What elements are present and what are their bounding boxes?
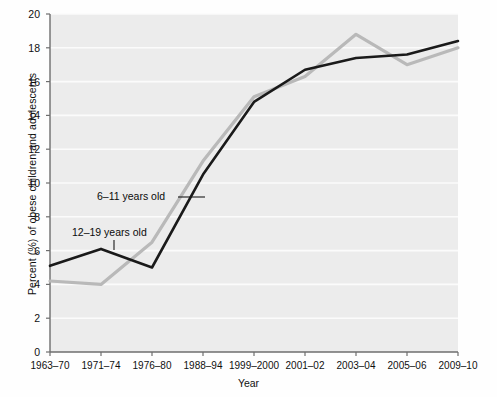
x-tick-label: 1971–74 [82,360,121,371]
x-tick-label: 2001–02 [286,360,325,371]
y-tick-label: 20 [6,9,40,19]
x-tick-label: 2003–04 [337,360,376,371]
x-axis-title: Year [0,377,497,389]
y-tick-label: 2 [6,313,40,323]
line-chart-plot [0,0,497,397]
y-tick-label: 0 [6,347,40,357]
y-tick-label: 12 [6,144,40,154]
y-tick-label: 6 [6,246,40,256]
x-tick-label: 1999–2000 [229,360,279,371]
series-label-12-19: 12–19 years old [72,226,147,238]
series-label-6-11: 6–11 years old [97,190,165,202]
chart-figure: Percent (%) of obese children and adoles… [0,0,497,397]
y-tick-label: 16 [6,77,40,87]
y-tick-label: 14 [6,110,40,120]
x-tick-label: 1988–94 [184,360,223,371]
y-tick-label: 4 [6,279,40,289]
y-tick-label: 10 [6,178,40,188]
x-tick-label: 2005–06 [388,360,427,371]
x-tick-label: 1976–80 [133,360,172,371]
x-tick-label: 1963–70 [31,360,70,371]
y-tick-label: 18 [6,43,40,53]
x-tick-label: 2009–10 [439,360,478,371]
y-tick-label: 8 [6,212,40,222]
